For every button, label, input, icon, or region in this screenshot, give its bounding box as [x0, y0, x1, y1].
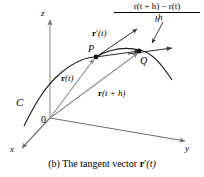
caption-prefix: (b) The tangent vector — [48, 158, 139, 169]
numerator-r2-arg: (t) — [172, 1, 181, 11]
numerator-minus: − — [159, 1, 169, 11]
point-label-q: Q — [140, 56, 147, 66]
tangent-vector-figure: r(t + h) − r(t) h h z y x 0 C P Q r(t) r… — [0, 0, 204, 177]
vector-label-tangent: r′(t) — [92, 29, 106, 38]
vector-label-r-of-t-plus-h: r(t + h) — [98, 89, 126, 98]
r-of-t-arg: (t) — [65, 73, 74, 83]
vector-label-r-of-t: r(t) — [61, 74, 74, 83]
fraction-numerator: r(t + h) − r(t) — [112, 1, 202, 12]
h-annotation-label: h — [158, 13, 163, 22]
axis-y — [50, 118, 185, 141]
caption-vector-arg: (t) — [146, 158, 155, 169]
numerator-r1-arg: (t + h) — [137, 1, 160, 11]
axis-label-y: y — [185, 144, 189, 153]
axis-label-x: x — [10, 145, 14, 154]
tangent-arg: (t) — [98, 28, 107, 38]
curve-label-c: C — [16, 97, 23, 108]
h-leader-arrow — [152, 22, 163, 43]
fraction-denominator: h — [112, 13, 202, 24]
difference-quotient-expression: r(t + h) − r(t) h — [112, 1, 202, 25]
figure-caption: (b) The tangent vector r′(t) — [0, 158, 204, 169]
point-marker-p — [94, 55, 99, 60]
point-marker-q — [137, 49, 142, 54]
vector-r-of-t — [50, 59, 94, 118]
origin-label: 0 — [41, 115, 46, 125]
point-label-p: P — [88, 44, 94, 54]
r-of-t-plus-h-arg: (t + h) — [102, 88, 126, 98]
vector-r-of-t-plus-h — [50, 53, 138, 118]
axis-label-z: z — [41, 9, 45, 18]
